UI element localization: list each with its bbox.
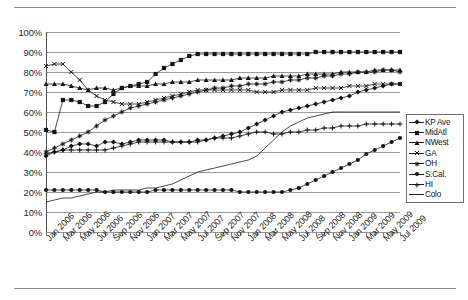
legend-marker-icon <box>408 128 425 138</box>
y-axis-tick-label: 70% <box>24 87 42 98</box>
legend-label: MidAtl <box>425 128 447 137</box>
line-chart-figure: 100%90%80%70%60%50%40%30%20%10%0% Jan 20… <box>0 14 468 286</box>
legend-item[interactable]: S.Cal. <box>408 169 461 179</box>
y-axis-tick-label: 80% <box>24 67 42 78</box>
legend-label: GA <box>425 149 436 158</box>
y-axis-tick-label: 40% <box>24 147 42 158</box>
legend-label: NWest <box>425 138 448 147</box>
legend-label: OH <box>425 159 437 168</box>
series-lines <box>46 32 400 232</box>
legend-item[interactable]: Colo <box>408 190 461 200</box>
y-axis-tick-label: 10% <box>24 207 42 218</box>
bottom-divider <box>14 288 456 289</box>
legend-label: Colo <box>425 190 441 199</box>
legend-item[interactable]: KP Ave <box>408 117 461 127</box>
chart-legend: KP AveMidAtlNWestGAOHS.Cal.HIColo <box>406 114 464 203</box>
y-axis-tick-label: 30% <box>24 167 42 178</box>
legend-label: HI <box>425 180 433 189</box>
legend-marker-icon <box>408 169 425 179</box>
legend-item[interactable]: MidAtl <box>408 127 461 137</box>
legend-marker-icon <box>408 117 425 127</box>
legend-label: KP Ave <box>425 118 450 127</box>
y-axis-tick-label: 20% <box>24 187 42 198</box>
legend-label: S.Cal. <box>425 170 446 179</box>
legend-item[interactable]: HI <box>408 179 461 189</box>
y-axis-tick-label: 100% <box>19 27 43 38</box>
legend-item[interactable]: NWest <box>408 138 461 148</box>
legend-marker-icon <box>408 148 425 158</box>
data-series <box>44 82 403 159</box>
data-series <box>44 62 402 106</box>
legend-marker-icon <box>408 180 425 190</box>
top-divider <box>14 7 456 8</box>
legend-marker-icon <box>408 138 425 148</box>
legend-item[interactable]: GA <box>408 148 461 158</box>
y-axis-tick-label: 60% <box>24 107 42 118</box>
legend-marker-icon <box>408 159 425 169</box>
data-series <box>44 50 402 134</box>
y-axis-labels: 100%90%80%70%60%50%40%30%20%10%0% <box>0 14 44 250</box>
y-axis-tick-label: 90% <box>24 47 42 58</box>
y-axis-tick-label: 50% <box>24 127 42 138</box>
chart-screenshot: 100%90%80%70%60%50%40%30%20%10%0% Jan 20… <box>0 0 468 300</box>
x-axis-labels: Jan 2006Mar 2006May 2006Jul 2006Sep 2006… <box>0 236 468 286</box>
legend-marker-icon <box>408 190 425 200</box>
legend-item[interactable]: OH <box>408 159 461 169</box>
